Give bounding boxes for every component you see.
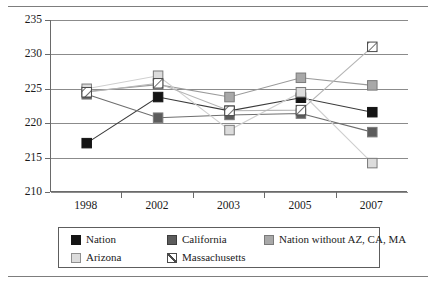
- legend-swatch-massachusetts-icon: [167, 253, 177, 263]
- legend-item-arizona[interactable]: Arizona: [71, 249, 121, 266]
- data-point-marker: [225, 106, 235, 116]
- data-point-marker: [225, 92, 235, 102]
- x-axis-tick-label: 2005: [270, 199, 330, 211]
- plot-area: [50, 20, 407, 192]
- legend-swatch-arizona-icon: [71, 253, 81, 263]
- data-point-marker: [296, 87, 306, 97]
- data-point-marker: [368, 42, 378, 52]
- legend-item-massachusetts[interactable]: Massachusetts: [167, 249, 246, 266]
- legend-swatch-nation-icon: [71, 235, 81, 245]
- legend-item-nation-without[interactable]: Nation without AZ, CA, MA: [264, 231, 406, 248]
- x-axis-tick-mark: [121, 192, 122, 198]
- legend-label: Arizona: [86, 252, 121, 263]
- bottom-divider-rule: [8, 276, 428, 277]
- legend-item-california[interactable]: California: [167, 231, 227, 248]
- top-divider-rule: [8, 6, 428, 7]
- legend-row: NationCaliforniaNation without AZ, CA, M…: [59, 231, 381, 248]
- legend-row: ArizonaMassachusetts: [59, 249, 381, 266]
- legend-label: California: [182, 234, 227, 245]
- data-point-marker: [296, 73, 306, 83]
- x-axis-tick-mark: [264, 192, 265, 198]
- x-axis-tick-label: 2007: [341, 199, 401, 211]
- y-axis-tick-label: 225: [8, 83, 42, 95]
- data-point-marker: [368, 158, 378, 168]
- data-point-marker: [82, 87, 92, 97]
- data-point-marker: [368, 127, 378, 137]
- y-axis-tick-label: 230: [8, 48, 42, 60]
- legend-label: Nation without AZ, CA, MA: [279, 234, 406, 245]
- data-point-marker: [82, 138, 92, 148]
- y-axis-tick-label: 220: [8, 117, 42, 129]
- legend-swatch-nation-without-icon: [264, 235, 274, 245]
- data-point-marker: [368, 81, 378, 91]
- data-point-marker: [368, 107, 378, 117]
- data-point-marker: [296, 105, 306, 115]
- data-point-marker: [153, 113, 163, 123]
- legend-label: Nation: [86, 234, 116, 245]
- data-point-marker: [153, 79, 163, 89]
- x-axis: 19982002200320052007: [50, 192, 407, 212]
- legend-label: Massachusetts: [182, 252, 246, 263]
- x-axis-tick-mark: [193, 192, 194, 198]
- y-axis-tick-label: 235: [8, 14, 42, 26]
- legend-swatch-california-icon: [167, 235, 177, 245]
- data-point-marker: [225, 125, 235, 135]
- x-axis-tick-label: 2003: [199, 199, 259, 211]
- series-layer: [51, 20, 408, 192]
- x-axis-tick-label: 1998: [56, 199, 116, 211]
- data-point-marker: [153, 92, 163, 102]
- y-axis-tick-label: 215: [8, 152, 42, 164]
- x-axis-tick-mark: [336, 192, 337, 198]
- x-axis-tick-label: 2002: [127, 199, 187, 211]
- chart-legend: NationCaliforniaNation without AZ, CA, M…: [58, 227, 380, 268]
- chart-figure: Scale score 235230225220215210 199820022…: [0, 0, 436, 287]
- legend-item-nation[interactable]: Nation: [71, 231, 116, 248]
- y-axis-tick-label: 210: [8, 186, 42, 198]
